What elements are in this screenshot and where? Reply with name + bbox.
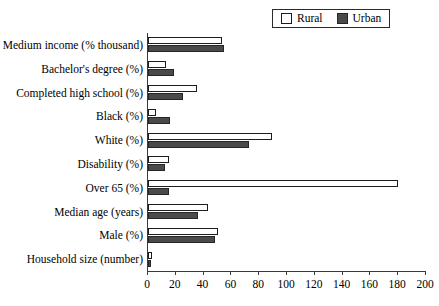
x-tick-label: 160: [361, 278, 378, 290]
bar-rural: [148, 85, 197, 92]
x-tick-mark: [258, 271, 259, 275]
x-tick-label: 140: [333, 278, 350, 290]
x-tick-mark: [314, 271, 315, 275]
x-tick-label: 200: [416, 278, 433, 290]
category-label: Household size (number): [1, 253, 143, 265]
bar-rural: [148, 204, 208, 211]
bar-urban: [148, 212, 198, 219]
category-axis-labels: Medium income (% thousand)Bachelor's deg…: [0, 33, 143, 271]
bar-rural: [148, 109, 156, 116]
bar-urban: [148, 93, 183, 100]
x-tick-label: 20: [169, 278, 181, 290]
category-label: White (%): [1, 134, 143, 146]
x-tick-label: 180: [389, 278, 406, 290]
bar-rural: [148, 252, 152, 259]
bar-chart: Rural Urban Medium income (% thousand)Ba…: [0, 0, 439, 306]
x-tick-mark: [342, 271, 343, 275]
bar-rural: [148, 133, 272, 140]
bar-rural: [148, 180, 398, 187]
x-tick-label: 100: [277, 278, 294, 290]
bar-group: [148, 57, 426, 81]
x-tick-mark: [175, 271, 176, 275]
bar-group: [148, 200, 426, 224]
bar-group: [148, 176, 426, 200]
bar-urban: [148, 45, 224, 52]
category-label: Black (%): [1, 110, 143, 122]
bar-urban: [148, 69, 174, 76]
bar-urban: [148, 117, 170, 124]
category-label: Male (%): [1, 229, 143, 241]
urban-swatch-icon: [337, 13, 348, 24]
bar-group: [148, 152, 426, 176]
bar-group: [148, 128, 426, 152]
x-tick-label: 120: [305, 278, 322, 290]
bar-urban: [148, 188, 169, 195]
category-label: Disability (%): [1, 158, 143, 170]
legend-item-rural: Rural: [281, 13, 323, 24]
x-tick-mark: [286, 271, 287, 275]
category-label: Median age (years): [1, 206, 143, 218]
chart-legend: Rural Urban: [272, 9, 390, 28]
bar-rural: [148, 61, 166, 68]
x-tick-label: 0: [144, 278, 150, 290]
bar-rural: [148, 156, 169, 163]
x-tick-label: 40: [197, 278, 209, 290]
x-tick-mark: [369, 271, 370, 275]
x-tick-label: 60: [225, 278, 237, 290]
x-tick-mark: [425, 271, 426, 275]
legend-item-urban: Urban: [337, 13, 382, 24]
bar-rural: [148, 37, 222, 44]
bar-group: [148, 247, 426, 271]
bar-group: [148, 104, 426, 128]
bar-urban: [148, 164, 165, 171]
bar-rural: [148, 228, 218, 235]
x-tick-label: 80: [252, 278, 264, 290]
category-label: Medium income (% thousand): [1, 39, 143, 51]
bar-group: [148, 81, 426, 105]
bar-urban: [148, 260, 151, 267]
rural-swatch-icon: [281, 13, 292, 24]
bar-urban: [148, 236, 215, 243]
legend-label-rural: Rural: [297, 13, 323, 24]
bar-group: [148, 33, 426, 57]
legend-label-urban: Urban: [353, 13, 382, 24]
x-tick-mark: [397, 271, 398, 275]
x-tick-mark: [147, 271, 148, 275]
category-label: Bachelor's degree (%): [1, 63, 143, 75]
x-tick-mark: [203, 271, 204, 275]
bar-urban: [148, 141, 249, 148]
category-label: Completed high school (%): [1, 87, 143, 99]
bar-group: [148, 223, 426, 247]
plot-area: 020406080100120140160180200: [147, 33, 425, 271]
x-tick-mark: [230, 271, 231, 275]
category-label: Over 65 (%): [1, 182, 143, 194]
